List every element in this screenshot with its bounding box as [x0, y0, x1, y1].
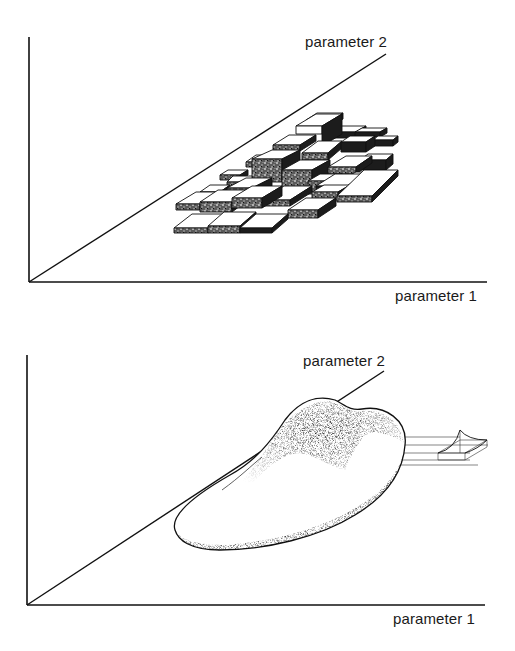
block — [373, 136, 398, 146]
histogram-plot — [0, 0, 515, 325]
density-surface-panel: parameter 2 parameter 1 — [0, 325, 515, 651]
parameter-2-label: parameter 2 — [305, 33, 387, 50]
density-surface-plot — [0, 325, 515, 651]
histogram-blocks — [174, 113, 398, 233]
parameter-2-label: parameter 2 — [303, 352, 385, 369]
parameter-1-label: parameter 1 — [395, 287, 477, 304]
block — [341, 136, 375, 152]
parameter-1-label: parameter 1 — [393, 610, 475, 627]
density-surface — [174, 398, 405, 550]
histogram-panel: parameter 2 parameter 1 — [0, 0, 515, 325]
